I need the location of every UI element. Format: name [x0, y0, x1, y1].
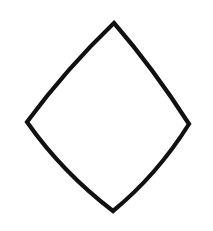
diamond-drawing — [0, 0, 213, 231]
drawing-canvas — [0, 0, 213, 231]
